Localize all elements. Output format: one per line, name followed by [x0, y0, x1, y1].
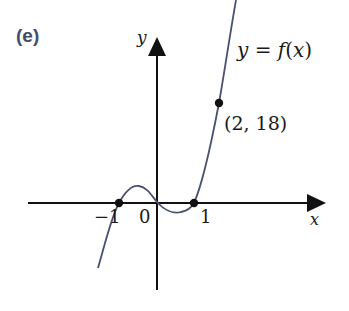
function-curve — [98, 0, 236, 268]
curve-label-arg: x — [293, 38, 304, 62]
x-axis-label: x — [310, 212, 319, 228]
curve-label-eq: = — [248, 38, 277, 62]
point-2-18 — [215, 99, 223, 107]
curve-label-lhs: y — [237, 38, 248, 62]
y-axis-arrow-icon — [148, 37, 166, 56]
curve-label: y = f(x) — [237, 40, 312, 60]
curve-label-open: ( — [285, 38, 293, 62]
tick-label-1: 1 — [200, 208, 211, 226]
point-label-2-18: (2, 18) — [224, 114, 287, 133]
root-point-1 — [190, 199, 198, 207]
y-axis-label: y — [137, 29, 147, 46]
part-label: (e) — [16, 25, 39, 47]
tick-label-0: 0 — [139, 208, 150, 226]
tick-label-neg1: −1 — [94, 208, 121, 226]
curve-label-close: ) — [304, 38, 312, 62]
